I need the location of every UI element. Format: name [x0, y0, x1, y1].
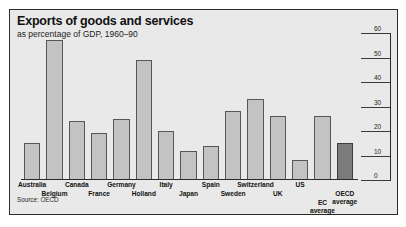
category-label-holland: Holland: [132, 190, 156, 197]
category-label-spain: Spain: [202, 181, 220, 188]
bar-sweden: [225, 111, 241, 180]
bar-us: [292, 160, 308, 180]
bar-canada: [69, 121, 85, 180]
bar-japan: [180, 151, 196, 180]
y-axis: 0102030405060: [361, 33, 401, 180]
category-labels: AustraliaBelgiumCanadaFranceGermanyHolla…: [21, 181, 361, 207]
source-note: Source: OECD: [17, 196, 59, 203]
category-label-italy: Italy: [160, 181, 173, 188]
plot-area: [21, 33, 356, 180]
page-title: Exports of goods and services: [17, 14, 193, 28]
y-tick-30: [361, 107, 390, 108]
y-tick-0: [361, 180, 390, 181]
bar-uk: [270, 116, 286, 180]
category-label-oecd-average: OECDaverage: [332, 190, 357, 206]
bar-switzerland: [247, 99, 263, 180]
bar-germany: [113, 119, 129, 180]
y-tick-label-30: 30: [374, 99, 381, 107]
category-label-germany: Germany: [107, 181, 136, 188]
x-axis-baseline: [21, 179, 358, 180]
bar-france: [91, 133, 107, 180]
category-label-uk: UK: [273, 190, 283, 197]
y-tick-label-20: 20: [374, 123, 381, 131]
y-tick-50: [361, 58, 390, 59]
y-tick-label-60: 60: [374, 25, 381, 33]
bar-australia: [24, 143, 40, 180]
category-label-switzerland: Switzerland: [237, 181, 274, 188]
category-label-us: US: [296, 181, 305, 188]
y-tick-20: [361, 131, 390, 132]
y-tick-40: [361, 82, 390, 83]
category-label-sweden: Sweden: [221, 190, 246, 197]
bar-spain: [203, 146, 219, 180]
category-label-canada: Canada: [65, 181, 89, 188]
bar-oecd-average: [337, 143, 353, 180]
bar-ec-average: [314, 116, 330, 180]
category-label-japan: Japan: [179, 190, 198, 197]
chart-panel: Exports of goods and services as percent…: [9, 9, 398, 215]
bar-italy: [158, 131, 174, 180]
y-tick-label-0: 0: [374, 172, 378, 180]
bar-holland: [136, 60, 152, 180]
category-label-australia: Australia: [18, 181, 46, 188]
y-tick-60: [361, 33, 390, 34]
bar-belgium: [46, 40, 62, 180]
category-label-france: France: [88, 190, 110, 197]
y-tick-label-40: 40: [374, 74, 381, 82]
y-tick-10: [361, 156, 390, 157]
category-label-ec-average: ECaverage: [310, 199, 335, 215]
y-tick-label-50: 50: [374, 50, 381, 58]
y-tick-label-10: 10: [374, 148, 381, 156]
